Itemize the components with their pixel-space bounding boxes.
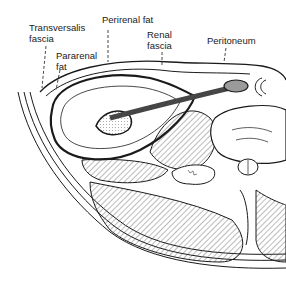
anatomy-diagram: Transversalis fascia Pararenal fat Perir… (0, 0, 286, 284)
label-pararenal-fat: Pararenal fat (56, 50, 97, 72)
vertebral-body (211, 106, 286, 164)
transverse-process (172, 165, 215, 184)
bulb (224, 80, 248, 92)
label-transversalis-fascia: Transversalis fascia (29, 22, 85, 44)
label-renal-fascia: Renal fascia (147, 29, 172, 51)
label-perirenal-fat: Perirenal fat (102, 14, 153, 25)
label-peritoneum: Peritoneum (207, 35, 256, 46)
quadratus-muscle (82, 159, 168, 182)
erector-muscle (90, 182, 243, 262)
